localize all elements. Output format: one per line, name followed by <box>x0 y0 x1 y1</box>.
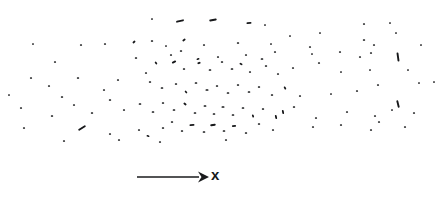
x-axis-arrow <box>130 160 240 194</box>
particle-mark <box>225 139 227 141</box>
particle-mark <box>272 129 274 131</box>
particle-mark <box>181 130 183 132</box>
particle-mark <box>407 69 409 71</box>
particle-mark <box>217 56 219 58</box>
particle-mark <box>346 111 348 113</box>
particle-mark <box>159 141 161 143</box>
particle-mark <box>54 61 56 63</box>
particle-mark <box>23 127 25 129</box>
particle-mark <box>176 19 184 23</box>
particle-mark <box>117 79 119 81</box>
particle-mark <box>170 54 172 56</box>
particle-mark <box>261 58 264 60</box>
particle-mark <box>165 45 167 47</box>
particle-mark <box>245 132 247 134</box>
particle-mark <box>78 125 86 131</box>
particle-mark <box>232 114 235 116</box>
particle-mark <box>145 72 147 74</box>
particle-mark <box>213 113 216 115</box>
particle-mark <box>309 46 311 48</box>
particle-mark <box>289 35 291 37</box>
particle-mark <box>237 84 239 86</box>
particle-mark <box>227 92 230 94</box>
particle-mark <box>246 22 251 24</box>
particle-mark <box>183 102 187 106</box>
particle-mark <box>282 110 285 114</box>
particle-mark <box>172 60 177 64</box>
arrow-head-icon <box>198 172 209 183</box>
particle-mark <box>222 106 225 108</box>
particle-mark <box>389 22 391 24</box>
particle-mark <box>162 127 164 129</box>
particle-mark <box>154 61 157 64</box>
x-axis-arrow-svg <box>130 160 240 194</box>
particle-mark <box>283 86 286 90</box>
particle-scatter-field <box>0 0 448 150</box>
particle-mark <box>299 95 301 97</box>
particle-mark <box>20 107 22 109</box>
particle-mark <box>175 83 177 85</box>
particle-mark <box>123 109 125 111</box>
particle-mark <box>206 89 209 91</box>
particle-mark <box>109 133 111 135</box>
particle-mark <box>262 108 264 110</box>
particle-mark <box>232 125 236 128</box>
particle-mark <box>171 121 173 123</box>
particle-mark <box>151 18 153 20</box>
particle-mark <box>356 90 358 92</box>
particle-mark <box>339 51 341 53</box>
particle-mark <box>312 126 314 128</box>
particle-mark <box>239 63 242 66</box>
particle-mark <box>369 69 371 71</box>
particle-mark <box>139 103 142 105</box>
particle-mark <box>340 124 342 126</box>
particle-mark <box>183 68 185 70</box>
particle-mark <box>370 52 372 54</box>
particle-mark <box>173 109 176 111</box>
particle-mark <box>203 44 205 46</box>
particle-mark <box>196 58 199 61</box>
particle-mark <box>149 81 151 83</box>
particle-mark <box>258 123 260 125</box>
x-axis-label: x <box>211 167 219 182</box>
particle-mark <box>237 42 239 44</box>
particle-mark <box>209 69 212 71</box>
particle-mark <box>48 85 50 87</box>
particle-mark <box>292 67 294 69</box>
particle-mark <box>264 24 266 26</box>
particle-mark <box>319 32 321 34</box>
particle-mark <box>162 102 164 104</box>
particle-mark <box>51 115 53 117</box>
particle-mark <box>151 40 153 42</box>
particle-mark <box>363 23 365 25</box>
particle-mark <box>370 129 372 131</box>
particle-mark <box>420 44 422 46</box>
particle-mark <box>275 115 278 119</box>
particle-mark <box>271 94 273 96</box>
particle-mark <box>377 84 379 86</box>
particle-mark <box>197 62 201 65</box>
particle-mark <box>245 54 247 56</box>
particle-mark <box>265 65 267 67</box>
particle-mark <box>433 81 435 83</box>
particle-mark <box>135 57 137 59</box>
particle-mark <box>363 39 365 41</box>
particle-mark <box>258 86 260 88</box>
particle-mark <box>404 126 406 128</box>
particle-mark <box>8 94 10 96</box>
particle-mark <box>252 114 255 117</box>
particle-mark <box>391 109 393 111</box>
particle-mark <box>293 106 295 108</box>
particle-mark <box>248 91 251 93</box>
particle-mark <box>103 89 105 91</box>
particle-mark <box>203 131 206 133</box>
particle-mark <box>396 100 400 108</box>
particle-mark <box>182 38 186 41</box>
particle-mark <box>270 43 272 45</box>
particle-mark <box>30 77 32 79</box>
particle-mark <box>231 68 234 70</box>
particle-mark <box>77 77 79 79</box>
particle-mark <box>209 18 217 21</box>
particle-mark <box>91 112 93 114</box>
particle-mark <box>330 93 332 95</box>
